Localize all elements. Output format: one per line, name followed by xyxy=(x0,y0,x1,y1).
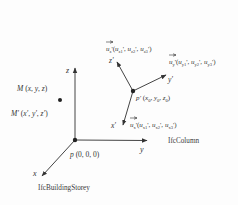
z-prime-axis-label: z' xyxy=(108,56,114,65)
z-prime-axis xyxy=(117,62,133,91)
local-origin-label: p' (x0, y0, z0) xyxy=(135,94,171,103)
x-prime-axis xyxy=(123,91,133,125)
local-frame-name: IfcColumn xyxy=(168,137,200,145)
y-axis xyxy=(75,140,147,141)
global-frame-name: IfcBuildingStorey xyxy=(38,184,90,192)
y-prime-axis xyxy=(133,75,166,91)
svg-text:ux'(ux1', ux2', ux3'): ux'(ux1', ux2', ux3') xyxy=(130,121,177,130)
svg-text:uz'(uz1', uz2', uz3'): uz'(uz1', uz2', uz3') xyxy=(106,45,152,54)
local-origin-point xyxy=(131,89,135,93)
unit-vector-z-label: uz'(uz1', uz2', uz3') xyxy=(106,42,152,54)
diagram-svg: z y x p (0, 0, 0) IfcBuildingStorey M (x… xyxy=(0,0,238,205)
local-frame: z' y' x' p' (x0, y0, z0) uz'(uz1', uz2',… xyxy=(106,42,216,145)
point-m-dot xyxy=(58,98,62,102)
y-axis-label: y xyxy=(139,145,144,154)
point-m-global-label: M (x, y, z) xyxy=(16,84,48,93)
global-origin-label: p (0, 0, 0) xyxy=(69,150,100,159)
x-prime-axis-label: x' xyxy=(110,121,116,130)
unit-vector-y-label: uy'(uy1', uy2', uy3') xyxy=(169,55,216,67)
svg-text:uy'(uy1', uy2', uy3'): uy'(uy1', uy2', uy3') xyxy=(169,58,216,67)
x-axis-label: x xyxy=(32,169,37,178)
point-m: M (x, y, z) M' (x', y', z') xyxy=(10,84,62,118)
coordinate-diagram: z y x p (0, 0, 0) IfcBuildingStorey M (x… xyxy=(0,0,238,205)
z-axis-label: z xyxy=(65,66,70,75)
global-origin-point xyxy=(73,138,77,142)
y-prime-axis-label: y' xyxy=(167,75,173,84)
point-m-local-label: M' (x', y', z') xyxy=(10,109,48,118)
unit-vector-x-label: ux'(ux1', ux2', ux3') xyxy=(130,118,177,130)
